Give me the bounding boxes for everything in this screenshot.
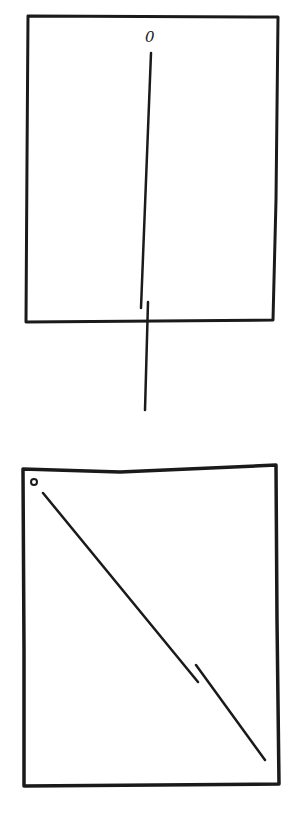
bottom-panel [23, 465, 279, 786]
top-box [26, 16, 278, 322]
diagonal-line-lower [196, 665, 265, 760]
top-panel [26, 16, 278, 410]
top-vertical-line [141, 53, 151, 308]
diagonal-line-upper [43, 493, 198, 682]
corner-circle-marker [31, 479, 37, 485]
top-vertical-extension [145, 302, 148, 410]
diagram-canvas [0, 0, 306, 816]
zero-label: 0 [145, 30, 155, 45]
